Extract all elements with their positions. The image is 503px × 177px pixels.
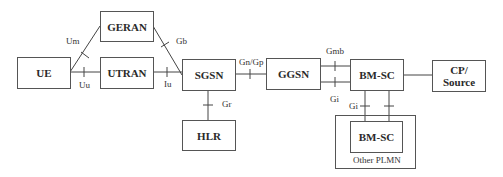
label-gmb: Gmb xyxy=(326,46,344,56)
label-iu: Iu xyxy=(164,79,172,89)
label-gn-gp: Gn/Gp xyxy=(239,57,264,67)
node-bmsc: BM-SC xyxy=(350,59,404,91)
label-uu: Uu xyxy=(79,80,90,90)
label-gi-other: Gi xyxy=(349,101,358,111)
node-sgsn: SGSN xyxy=(182,59,236,91)
node-geran: GERAN xyxy=(100,11,154,42)
label-gb: Gb xyxy=(176,36,187,46)
node-bmsc-other-plmn: BM-SC xyxy=(350,121,403,153)
node-ue: UE xyxy=(17,57,71,89)
tick-um xyxy=(81,52,89,58)
connection-lines xyxy=(0,0,503,177)
node-hlr: HLR xyxy=(182,120,236,151)
node-ggsn: GGSN xyxy=(266,58,321,90)
edge-um xyxy=(70,26,100,72)
label-um: Um xyxy=(66,36,80,46)
label-gr: Gr xyxy=(222,99,232,109)
other-plmn-label: Other PLMN xyxy=(353,155,401,165)
node-cp-source: CP/ Source xyxy=(432,60,486,92)
label-gi: Gi xyxy=(330,94,339,104)
node-utran: UTRAN xyxy=(100,57,154,89)
